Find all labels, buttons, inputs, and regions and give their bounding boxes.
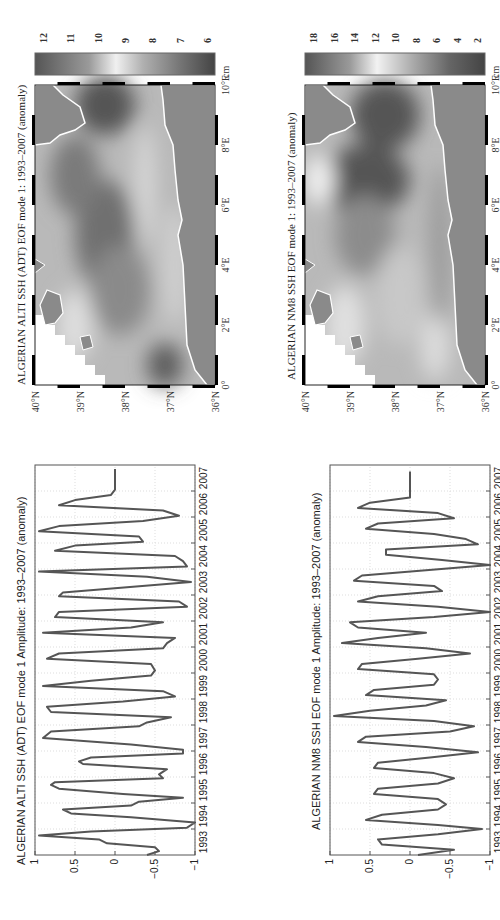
colorbar-gradient xyxy=(35,53,215,75)
colorbar-gradient xyxy=(305,53,485,75)
lat-tick-label: 38°N xyxy=(390,391,401,412)
lon-tick-label: 8°E xyxy=(490,137,500,152)
lon-tick-label: 4°E xyxy=(490,257,500,272)
x-tick-label: 1998 xyxy=(493,700,500,723)
x-tick-label: 1996 xyxy=(493,752,500,775)
x-tick-label: 2005 xyxy=(493,518,500,541)
x-tick-label: 2000 xyxy=(493,648,500,671)
x-tick-label: 1999 xyxy=(493,674,500,697)
x-tick-label: 2006 xyxy=(493,492,500,515)
y-tick-label: 0.5 xyxy=(364,859,375,873)
lon-tick-label: 0° xyxy=(490,381,500,390)
x-tick-label: 2005 xyxy=(198,518,209,541)
x-tick-label: 1999 xyxy=(198,674,209,697)
y-tick-label: 0.5 xyxy=(69,859,80,873)
amplitude-line xyxy=(334,472,490,856)
x-tick-label: 1995 xyxy=(493,778,500,801)
x-tick-label: 2003 xyxy=(493,570,500,593)
alti-colorbar: 1211109876cm xyxy=(35,0,215,75)
x-tick-label: 2003 xyxy=(198,570,209,593)
colorbar-tick-label: 10 xyxy=(93,33,104,43)
lat-tick-label: 39°N xyxy=(345,391,356,412)
x-tick-label: 2001 xyxy=(493,622,500,645)
x-tick-label: 1998 xyxy=(198,700,209,723)
lon-tick-label: 4°E xyxy=(220,257,231,272)
colorbar-tick-label: 8 xyxy=(147,38,158,43)
x-tick-label: 2001 xyxy=(198,622,209,645)
x-tick-label: 2000 xyxy=(198,648,209,671)
lat-tick-label: 39°N xyxy=(75,391,86,412)
x-tick-label: 1993 xyxy=(493,830,500,853)
x-tick-label: 1993 xyxy=(198,830,209,853)
alti-amplitude-plot: 10.50−0.5−119931994199519961997199819992… xyxy=(35,465,195,855)
nm8-colorbar-plot: 18161412108642cm xyxy=(305,0,485,75)
lon-tick-label: 6°E xyxy=(490,197,500,212)
lon-tick-label: 6°E xyxy=(220,197,231,212)
x-tick-label: 2002 xyxy=(198,596,209,619)
y-tick-label: 1 xyxy=(324,859,335,865)
x-tick-label: 2002 xyxy=(493,596,500,619)
x-tick-label: 1995 xyxy=(198,778,209,801)
alti-amplitude-chart-title: ALGERIAN ALTI SSH (ADT) EOF mode 1 Ampli… xyxy=(15,497,27,865)
lat-tick-label: 40°N xyxy=(30,391,41,412)
colorbar-tick-label: 8 xyxy=(411,38,422,43)
x-tick-label: 1996 xyxy=(198,752,209,775)
x-tick-label: 2007 xyxy=(493,466,500,489)
alti-eof-map-plot: 0°2°E4°E6°E8°E10°E40°N39°N38°N37°N36°N xyxy=(35,85,215,385)
y-tick-label: 0 xyxy=(404,859,415,865)
y-tick-label: −1 xyxy=(189,859,200,871)
lat-tick-label: 36°N xyxy=(480,391,491,412)
x-tick-label: 1994 xyxy=(493,804,500,827)
nm8-eof-map-plot: 0°2°E4°E6°E8°E10°E40°N39°N38°N37°N36°N xyxy=(305,85,485,385)
nm8-amplitude-plot: 10.50−0.5−119931994199519961997199819992… xyxy=(330,465,490,855)
colorbar-unit-label: cm xyxy=(220,66,231,78)
y-tick-label: −0.5 xyxy=(149,859,160,879)
colorbar-tick-label: 6 xyxy=(202,38,213,43)
colorbar-tick-label: 9 xyxy=(120,38,131,43)
amplitude-line xyxy=(39,469,195,855)
lat-tick-label: 38°N xyxy=(120,391,131,412)
x-tick-label: 2007 xyxy=(198,466,209,489)
alti-colorbar-plot: 1211109876cm xyxy=(35,0,215,75)
colorbar-tick-label: 11 xyxy=(65,34,76,43)
x-tick-label: 1997 xyxy=(493,726,500,749)
y-tick-label: 1 xyxy=(29,859,40,865)
lat-tick-label: 37°N xyxy=(435,391,446,412)
lon-tick-label: 2°E xyxy=(220,317,231,332)
colorbar-tick-label: 7 xyxy=(175,38,186,43)
lat-tick-label: 36°N xyxy=(210,391,221,412)
alti-eof-map-title: ALGERIAN ALTI SSH (ADT) EOF mode 1: 1993… xyxy=(15,85,27,385)
lat-tick-label: 40°N xyxy=(300,391,311,412)
y-tick-label: −1 xyxy=(484,859,495,871)
x-tick-label: 1997 xyxy=(198,726,209,749)
nm8-amplitude-chart: ALGERIAN NM8 SSH EOF mode 1 Amplitude: 1… xyxy=(330,465,490,855)
x-tick-label: 2004 xyxy=(198,544,209,567)
colorbar-unit-label: cm xyxy=(490,66,500,78)
colorbar-tick-label: 12 xyxy=(38,33,49,43)
lon-tick-label: 8°E xyxy=(220,137,231,152)
y-tick-label: 0 xyxy=(109,859,120,865)
colorbar-tick-label: 14 xyxy=(349,33,360,43)
x-tick-label: 1994 xyxy=(198,804,209,827)
colorbar-tick-label: 2 xyxy=(472,38,483,43)
nm8-amplitude-chart-title: ALGERIAN NM8 SSH EOF mode 1 Amplitude: 1… xyxy=(310,493,322,831)
lat-tick-label: 37°N xyxy=(165,391,176,412)
alti-eof-map: ALGERIAN ALTI SSH (ADT) EOF mode 1: 1993… xyxy=(35,85,215,385)
lon-tick-label: 2°E xyxy=(490,317,500,332)
x-tick-label: 2004 xyxy=(493,544,500,567)
colorbar-tick-label: 16 xyxy=(329,33,340,43)
colorbar-tick-label: 6 xyxy=(431,38,442,43)
nm8-eof-map: ALGERIAN NM8 SSH EOF mode 1: 1993–2007 (… xyxy=(305,85,485,385)
y-tick-label: −0.5 xyxy=(444,859,455,879)
lon-tick-label: 0° xyxy=(220,381,231,390)
colorbar-tick-label: 10 xyxy=(390,33,401,43)
figure-canvas: ALGERIAN ALTI SSH (ADT) EOF mode 1 Ampli… xyxy=(0,0,500,920)
alti-amplitude-chart: ALGERIAN ALTI SSH (ADT) EOF mode 1 Ampli… xyxy=(35,465,195,855)
nm8-colorbar: 18161412108642cm xyxy=(305,0,485,75)
colorbar-tick-label: 4 xyxy=(452,38,463,43)
x-tick-label: 2006 xyxy=(198,492,209,515)
nm8-eof-map-title: ALGERIAN NM8 SSH EOF mode 1: 1993–2007 (… xyxy=(285,113,297,380)
colorbar-tick-label: 18 xyxy=(308,33,319,43)
colorbar-tick-label: 12 xyxy=(370,33,381,43)
